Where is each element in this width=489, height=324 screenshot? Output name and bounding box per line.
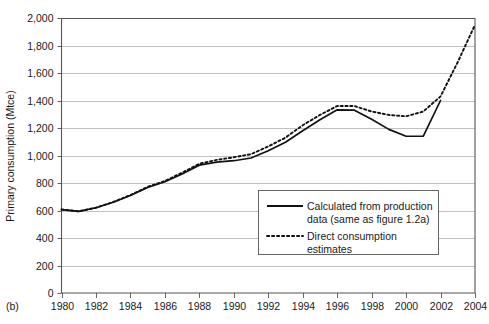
- x-tick-label: 2004: [464, 300, 488, 312]
- legend-entry-0-line1: Calculated from production: [307, 200, 433, 212]
- x-tick-label: 1980: [51, 300, 75, 312]
- x-tick-label: 1994: [292, 300, 316, 312]
- y-tick-label: 400: [36, 232, 54, 244]
- y-tick-label: 1,400: [27, 95, 53, 107]
- y-tick-label: 600: [36, 205, 54, 217]
- y-tick-label: 1,800: [27, 40, 53, 52]
- legend-entry-1-line1: Direct consumption: [307, 230, 397, 242]
- y-tick-label: 1,000: [27, 150, 53, 162]
- y-tick-label: 1,200: [27, 122, 53, 134]
- chart-legend: Calculated from production data (same as…: [259, 191, 439, 256]
- x-tick-label: 1988: [188, 300, 212, 312]
- y-tick-label: 800: [36, 177, 54, 189]
- y-tick-label: 1,600: [27, 67, 53, 79]
- figure-panel-b: 02004006008001,0001,2001,4001,6001,8002,…: [0, 0, 489, 324]
- panel-label: (b): [6, 300, 19, 312]
- legend-entry-0-line2: data (same as figure 1.2a): [307, 213, 430, 225]
- x-tick-label: 1986: [154, 300, 178, 312]
- y-tick-label: 0: [48, 287, 54, 299]
- y-tick-label: 2,000: [27, 12, 53, 24]
- legend-entry-1-line2: estimates: [307, 243, 352, 255]
- x-tick-label: 1992: [257, 300, 281, 312]
- x-axis-ticks: 1980198219841986198819901992199419961998…: [51, 293, 488, 312]
- y-tick-label: 200: [36, 260, 54, 272]
- x-tick-label: 2000: [395, 300, 419, 312]
- x-tick-label: 1990: [223, 300, 247, 312]
- x-tick-label: 1996: [326, 300, 350, 312]
- line-chart: 02004006008001,0001,2001,4001,6001,8002,…: [0, 0, 489, 324]
- y-axis-title: Primary consumption (Mtce): [4, 90, 16, 221]
- x-tick-label: 2002: [430, 300, 454, 312]
- y-axis-ticks: 02004006008001,0001,2001,4001,6001,8002,…: [27, 12, 61, 299]
- x-tick-label: 1982: [85, 300, 109, 312]
- x-tick-label: 1984: [119, 300, 143, 312]
- x-tick-label: 1998: [361, 300, 385, 312]
